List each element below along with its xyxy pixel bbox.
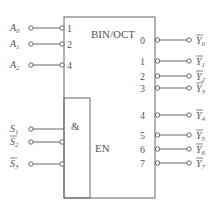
input-label: A1 bbox=[9, 38, 20, 51]
enable-s3: S3 bbox=[10, 158, 64, 171]
output-y5: 5Y5 bbox=[140, 130, 206, 143]
output-label: Y0 bbox=[196, 35, 206, 48]
input-a2: A24 bbox=[9, 59, 72, 72]
bubble-icon bbox=[60, 63, 64, 67]
terminal-icon bbox=[29, 127, 33, 131]
bubble-icon bbox=[60, 26, 64, 30]
pin-number: 2 bbox=[140, 71, 145, 82]
terminal-icon bbox=[29, 42, 33, 46]
bubble-icon bbox=[155, 38, 159, 42]
output-label: Y3 bbox=[196, 83, 206, 96]
enable-label: S1 bbox=[10, 123, 19, 136]
pin-number: 5 bbox=[140, 130, 145, 141]
terminal-icon bbox=[29, 162, 33, 166]
pin-number: 0 bbox=[140, 35, 145, 46]
pin-number: 6 bbox=[140, 144, 145, 155]
pin-number: 2 bbox=[67, 39, 72, 50]
input-a0: A01 bbox=[9, 22, 72, 35]
output-y3: 3Y3 bbox=[140, 83, 206, 96]
terminal-icon bbox=[187, 74, 191, 78]
bubble-icon bbox=[155, 147, 159, 151]
bubble-icon bbox=[155, 86, 159, 90]
bubble-icon bbox=[60, 42, 64, 46]
bubble-icon bbox=[60, 140, 64, 144]
pin-number: 1 bbox=[67, 23, 72, 34]
and-gate-symbol: & bbox=[71, 120, 80, 132]
bin-oct-decoder-diagram: BIN/OCT & EN A01A12A24 S1S2S3 0Y01Y12Y23… bbox=[0, 0, 214, 207]
output-label: Y6 bbox=[196, 144, 206, 157]
control-block bbox=[64, 98, 90, 198]
terminal-icon bbox=[187, 38, 191, 42]
terminal-icon bbox=[187, 161, 191, 165]
pin-number: 7 bbox=[140, 158, 145, 169]
terminal-icon bbox=[187, 147, 191, 151]
bubble-icon bbox=[155, 161, 159, 165]
output-y7: 7Y7 bbox=[140, 158, 206, 171]
bubble-icon bbox=[155, 133, 159, 137]
terminal-icon bbox=[29, 140, 33, 144]
pin-number: 1 bbox=[140, 56, 145, 67]
terminal-icon bbox=[187, 59, 191, 63]
input-a1: A12 bbox=[9, 38, 72, 51]
output-label: Y4 bbox=[196, 110, 206, 123]
output-label: Y5 bbox=[196, 130, 206, 143]
input-label: A2 bbox=[9, 59, 20, 72]
pin-number: 4 bbox=[140, 110, 145, 121]
enable-s1: S1 bbox=[10, 123, 64, 136]
bubble-icon bbox=[155, 113, 159, 117]
output-y6: 6Y6 bbox=[140, 144, 206, 157]
pin-number: 3 bbox=[140, 83, 145, 94]
terminal-icon bbox=[187, 86, 191, 90]
terminal-icon bbox=[187, 133, 191, 137]
enable-label: EN bbox=[95, 142, 110, 154]
terminal-icon bbox=[187, 113, 191, 117]
output-y4: 4Y4 bbox=[140, 110, 206, 123]
enable-label: S2 bbox=[10, 136, 19, 149]
bubble-icon bbox=[155, 74, 159, 78]
terminal-icon bbox=[29, 63, 33, 67]
input-label: A0 bbox=[9, 22, 20, 35]
output-label: Y7 bbox=[196, 158, 206, 171]
decoder-title: BIN/OCT bbox=[91, 28, 135, 40]
enable-s2: S2 bbox=[10, 136, 64, 149]
output-y1: 1Y1 bbox=[140, 56, 205, 69]
output-label: Y1 bbox=[196, 56, 205, 69]
terminal-icon bbox=[29, 26, 33, 30]
bubble-icon bbox=[60, 162, 64, 166]
pin-number: 4 bbox=[67, 60, 72, 71]
output-y0: 0Y0 bbox=[140, 35, 206, 48]
enable-label: S3 bbox=[10, 158, 19, 171]
bubble-icon bbox=[155, 59, 159, 63]
